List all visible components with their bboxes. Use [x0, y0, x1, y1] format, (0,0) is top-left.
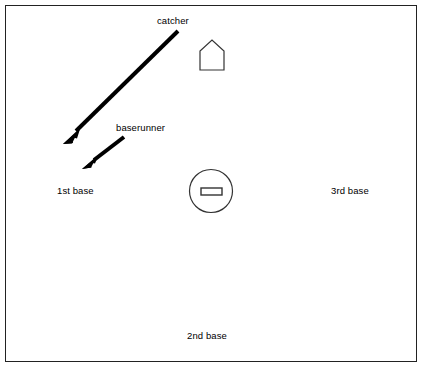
- home-plate-pentagon-icon: [200, 40, 224, 70]
- pitchers-rubber-rect-icon: [201, 188, 222, 195]
- label-third-base: 3rd base: [331, 185, 369, 196]
- label-catcher: catcher: [157, 15, 189, 26]
- label-first-base: 1st base: [57, 185, 94, 196]
- label-baserunner: baserunner: [116, 122, 165, 133]
- baserunner-run-arrow-icon: [82, 137, 124, 169]
- label-second-base: 2nd base: [187, 330, 227, 341]
- baseball-diagram-root: catcher baserunner 1st base 3rd base 2nd…: [0, 0, 423, 371]
